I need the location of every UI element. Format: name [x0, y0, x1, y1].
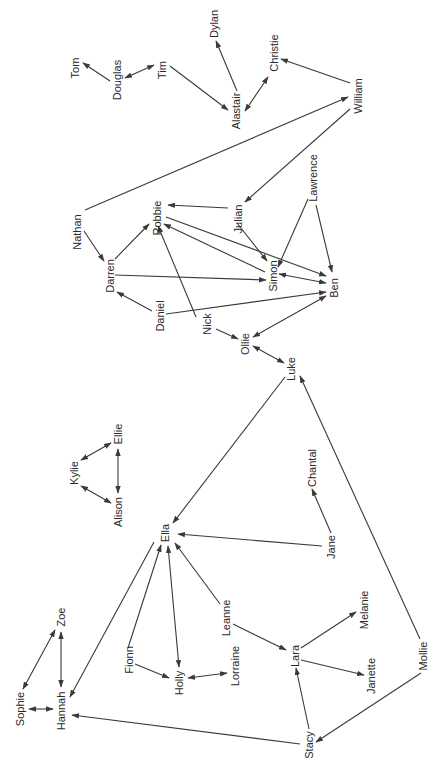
- node-kylie: Kylie: [68, 461, 80, 485]
- edge-kylie-alison: [81, 486, 111, 503]
- edge-stacy-lara: [296, 668, 309, 729]
- edge-nick-ollie: [216, 329, 238, 339]
- node-chantal: Chantal: [306, 449, 318, 487]
- node-ollie: Ollie: [239, 333, 251, 355]
- edge-lawrence-ben: [316, 205, 332, 272]
- edge-lara-melanie: [301, 612, 356, 648]
- node-ella: Ella: [159, 523, 171, 542]
- node-luke: Luke: [285, 357, 297, 381]
- node-leanne: Leanne: [220, 600, 232, 637]
- nodes-layer: TomDouglasTimDylanAlastairChristieWillia…: [14, 10, 429, 759]
- node-daniel: Daniel: [154, 300, 166, 331]
- edge-kylie-ellie: [81, 443, 111, 460]
- node-alastair: Alastair: [230, 92, 242, 129]
- node-christie: Christie: [268, 34, 280, 71]
- node-holly: Holly: [173, 670, 185, 695]
- edge-stacy-hannah: [72, 715, 300, 744]
- edge-zoe-sophie: [23, 630, 55, 689]
- node-fionn: Fionn: [123, 646, 135, 674]
- node-mollie: Mollie: [417, 642, 429, 671]
- node-tom: Tom: [69, 58, 81, 79]
- edge-darren-simon: [115, 275, 266, 280]
- edge-ollie-luke: [253, 346, 284, 363]
- edge-robbie-ben: [166, 217, 326, 276]
- node-dylan: Dylan: [208, 10, 220, 38]
- node-lawrence: Lawrence: [307, 154, 319, 202]
- node-alison: Alison: [112, 497, 124, 527]
- node-simon: Simon: [267, 260, 279, 291]
- node-sophie: Sophie: [14, 692, 26, 726]
- node-darren: Darren: [104, 259, 116, 293]
- node-julian: Julian: [232, 205, 244, 234]
- edge-lara-janette: [301, 660, 364, 675]
- edge-alastair-dylan: [216, 41, 237, 91]
- node-janette: Janette: [365, 658, 377, 694]
- edge-daniel-darren: [117, 292, 152, 311]
- node-hannah: Hannah: [55, 692, 67, 731]
- edge-holly-lorraine: [188, 673, 227, 678]
- node-stacy: Stacy: [303, 731, 315, 759]
- node-nick: Nick: [201, 313, 213, 335]
- node-lorraine: Lorraine: [229, 646, 241, 686]
- node-zoe: Zoe: [55, 608, 67, 627]
- edge-tim-alastair: [170, 66, 228, 110]
- node-douglas: Douglas: [111, 59, 123, 100]
- node-tim: Tim: [156, 61, 168, 79]
- network-diagram: TomDouglasTimDylanAlastairChristieWillia…: [0, 0, 440, 778]
- edge-douglas-tim: [125, 65, 154, 78]
- edge-ella-hannah: [70, 542, 154, 697]
- edge-jane-ella: [178, 534, 322, 546]
- node-ellie: Ellie: [112, 424, 124, 445]
- edge-lawrence-simon: [278, 199, 308, 267]
- node-jane: Jane: [325, 535, 337, 559]
- node-william: William: [352, 78, 364, 113]
- edge-julian-robbie: [168, 205, 228, 208]
- edge-william-julian: [245, 109, 350, 202]
- edge-william-christie: [281, 59, 350, 83]
- node-melanie: Melanie: [358, 591, 370, 630]
- edge-jane-chantal: [312, 489, 331, 533]
- edge-nathan-darren: [84, 231, 104, 261]
- edges-layer: [23, 41, 421, 744]
- edge-luke-ella: [173, 377, 285, 523]
- edge-darren-robbie: [115, 224, 149, 259]
- edge-leanne-ella: [175, 543, 220, 604]
- node-lara: Lara: [289, 644, 301, 667]
- node-robbie: Robbie: [151, 201, 163, 236]
- edge-ollie-ben: [253, 296, 326, 337]
- edge-simon-ben: [279, 274, 326, 283]
- node-nathan: Nathan: [71, 214, 83, 249]
- edge-alastair-christie: [245, 77, 268, 111]
- edge-ella-holly: [168, 546, 179, 667]
- edge-fionn-holly: [135, 664, 169, 678]
- node-ben: Ben: [328, 278, 340, 298]
- edge-douglas-tom: [83, 63, 110, 81]
